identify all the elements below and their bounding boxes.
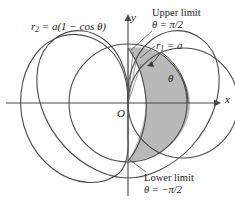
theta-label: θ [168, 72, 173, 85]
upper-limit-annotation: Upper limit θ = π/2 [152, 7, 201, 31]
upper-limit-line2: θ = π/2 [152, 19, 201, 31]
polar-area-figure: r2 = a(1 − cos θ) r1 = a Upper limit θ =… [0, 0, 235, 204]
curve-label-r1: r1 = a [156, 39, 182, 54]
lower-limit-line2: θ = −π/2 [144, 184, 194, 196]
origin-label: O [117, 107, 125, 120]
x-axis-label: x [225, 93, 230, 106]
r1-equation-rest: = a [164, 39, 182, 51]
upper-limit-leader [131, 31, 152, 50]
curve-label-r2: r2 = a(1 − cos θ) [31, 20, 106, 35]
y-axis [125, 14, 132, 196]
upper-limit-line1: Upper limit [152, 7, 201, 19]
lower-limit-leader [130, 160, 146, 172]
lower-limit-annotation: Lower limit θ = −π/2 [144, 172, 194, 196]
lower-limit-line1: Lower limit [144, 172, 194, 184]
y-axis-label: y [131, 11, 136, 24]
x-axis-arrowhead [214, 100, 221, 107]
r2-equation-rest: = a(1 − cos θ) [39, 20, 106, 32]
